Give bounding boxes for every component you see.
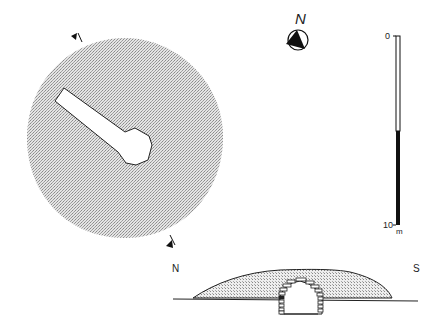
north-arrow: N	[286, 10, 308, 50]
section-marker-bottom	[166, 235, 175, 248]
scale-bottom-label: 10	[383, 220, 393, 230]
section-right-label: S	[413, 263, 420, 274]
tomb-drawing: N 0 10 m N S	[0, 0, 439, 331]
scale-bar: 0 10 m	[383, 31, 403, 236]
north-label: N	[295, 10, 306, 27]
plan-view	[27, 33, 223, 248]
section-left-label: N	[172, 263, 179, 274]
scale-unit-label: m	[396, 227, 403, 236]
section-view: N S	[172, 263, 420, 314]
section-marker-top	[71, 33, 82, 42]
scale-top-label: 0	[385, 31, 390, 41]
